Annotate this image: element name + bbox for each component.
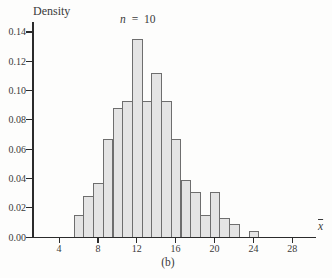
y-axis-title: Density bbox=[33, 4, 70, 19]
y-axis-line bbox=[32, 22, 34, 238]
histogram-bar bbox=[249, 231, 260, 237]
y-tick-label: 0.14 bbox=[0, 26, 26, 37]
annotation-value: = 10 bbox=[126, 13, 156, 25]
x-tick-label: 8 bbox=[87, 243, 109, 254]
x-tick-label: 28 bbox=[281, 243, 303, 254]
y-tick bbox=[26, 90, 32, 91]
x-tick-label: 4 bbox=[48, 243, 70, 254]
x-tick-label: 24 bbox=[242, 243, 264, 254]
y-tick-label: 0.10 bbox=[0, 85, 26, 96]
x-tick-label: 12 bbox=[126, 243, 148, 254]
y-tick bbox=[26, 207, 32, 208]
y-tick-label: 0.08 bbox=[0, 114, 26, 125]
y-tick-label: 0.02 bbox=[0, 202, 26, 213]
histogram-figure: Density n = 10 x (b) 0.000.020.040.060.0… bbox=[0, 0, 332, 278]
y-tick bbox=[26, 178, 32, 179]
x-axis-title: x bbox=[318, 220, 323, 232]
x-tick-label: 16 bbox=[165, 243, 187, 254]
y-tick bbox=[26, 31, 32, 32]
sample-size-annotation: n = 10 bbox=[120, 13, 156, 25]
y-tick bbox=[26, 237, 32, 238]
y-tick bbox=[26, 149, 32, 150]
histogram-bar bbox=[229, 224, 240, 237]
y-tick-label: 0.06 bbox=[0, 144, 26, 155]
y-tick-label: 0.12 bbox=[0, 56, 26, 67]
x-tick-label: 20 bbox=[204, 243, 226, 254]
figure-caption: (b) bbox=[140, 256, 196, 268]
y-tick-label: 0.00 bbox=[0, 232, 26, 243]
y-tick-label: 0.04 bbox=[0, 173, 26, 184]
y-tick bbox=[26, 119, 32, 120]
y-tick bbox=[26, 61, 32, 62]
